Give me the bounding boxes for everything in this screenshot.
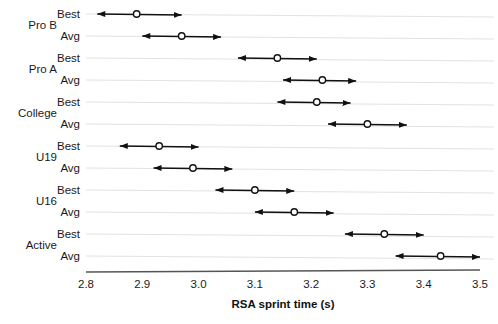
group-label-pro-b: Pro B bbox=[0, 19, 57, 31]
row-label-active-avg: Avg bbox=[30, 250, 80, 262]
value-marker bbox=[291, 209, 297, 215]
row-label-pro-a-avg: Avg bbox=[30, 74, 80, 86]
gridline bbox=[86, 124, 494, 127]
group-label-u16: U16 bbox=[0, 195, 57, 207]
gridline bbox=[86, 234, 494, 237]
x-axis-title: RSA sprint time (s) bbox=[231, 298, 334, 310]
value-marker bbox=[252, 187, 258, 193]
data-row bbox=[215, 187, 294, 193]
x-tick-label: 3.1 bbox=[247, 278, 263, 290]
x-tick-label: 3.5 bbox=[472, 278, 488, 290]
value-marker bbox=[133, 11, 139, 17]
x-tick-label: 3.4 bbox=[416, 278, 432, 290]
row-label-u19-avg: Avg bbox=[30, 162, 80, 174]
data-row bbox=[97, 11, 181, 17]
value-marker bbox=[437, 253, 443, 259]
value-marker bbox=[381, 231, 387, 237]
group-label-u19: U19 bbox=[0, 151, 57, 163]
data-row bbox=[255, 209, 334, 215]
data-row bbox=[142, 33, 221, 39]
row-label-college-avg: Avg bbox=[30, 118, 80, 130]
x-axis-line bbox=[86, 270, 480, 272]
value-marker bbox=[156, 143, 162, 149]
group-label-active: Active bbox=[0, 239, 57, 251]
x-tick-label: 2.8 bbox=[78, 278, 94, 290]
row-label-pro-b-avg: Avg bbox=[30, 30, 80, 42]
x-tick-label: 3.2 bbox=[303, 278, 319, 290]
value-marker bbox=[319, 77, 325, 83]
x-tick-label: 3.3 bbox=[359, 278, 375, 290]
value-marker bbox=[274, 55, 280, 61]
data-row bbox=[154, 165, 233, 171]
group-label-college: College bbox=[0, 107, 57, 119]
value-marker bbox=[190, 165, 196, 171]
row-label-u16-avg: Avg bbox=[30, 206, 80, 218]
value-marker bbox=[314, 99, 320, 105]
data-row bbox=[238, 55, 317, 61]
x-tick-label: 3.0 bbox=[191, 278, 207, 290]
data-row bbox=[120, 143, 199, 149]
rsa-sprint-time-chart: BestAvgBestAvgBestAvgBestAvgBestAvgBestA… bbox=[0, 0, 498, 324]
group-label-pro-a: Pro A bbox=[0, 63, 57, 75]
gridline bbox=[86, 168, 494, 171]
x-tick-label: 2.9 bbox=[134, 278, 150, 290]
value-marker bbox=[364, 121, 370, 127]
value-marker bbox=[178, 33, 184, 39]
